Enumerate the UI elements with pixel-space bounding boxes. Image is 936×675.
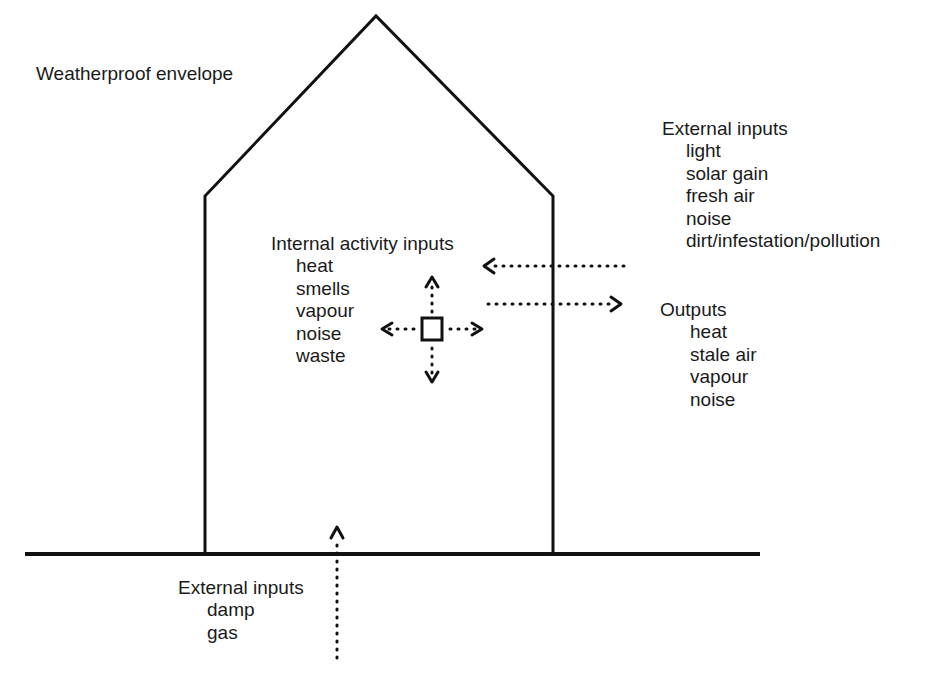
external-input-item: fresh air [662,185,880,208]
internal-inputs-heading: Internal activity inputs [271,233,454,255]
internal-input-item: smells [271,278,454,301]
output-item: stale air [660,344,757,367]
diagram-graphics [0,0,936,675]
external-input-item: light [662,140,880,163]
ground-external-inputs-heading: External inputs [178,577,304,599]
external-inputs-group: External inputs light solar gain fresh a… [662,118,880,253]
internal-inputs-group: Internal activity inputs heat smells vap… [271,233,454,368]
ground-inflow-arrow-icon [331,527,343,658]
outputs-group: Outputs heat stale air vapour noise [660,299,757,411]
output-item: vapour [660,366,757,389]
ground-external-input-item: damp [178,599,304,622]
external-input-item: noise [662,208,880,231]
ground-external-input-item: gas [178,622,304,645]
outputs-heading: Outputs [660,299,757,321]
output-item: heat [660,321,757,344]
internal-input-item: waste [271,345,454,368]
external-input-item: dirt/infestation/pollution [662,230,880,253]
internal-input-item: vapour [271,300,454,323]
internal-input-item: noise [271,323,454,346]
weatherproof-envelope-label: Weatherproof envelope [36,63,233,85]
ground-external-inputs-group: External inputs damp gas [178,577,304,644]
internal-right-arrow-icon [450,323,482,335]
internal-input-item: heat [271,255,454,278]
building-envelope-diagram: Weatherproof envelope Internal activity … [0,0,936,675]
external-input-item: solar gain [662,163,880,186]
output-item: noise [660,389,757,412]
external-inputs-heading: External inputs [662,118,880,140]
